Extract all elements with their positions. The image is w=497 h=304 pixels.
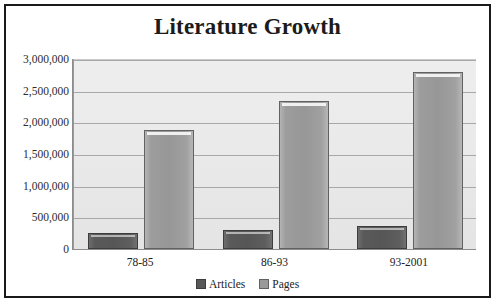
chart-legend: ArticlesPages <box>6 278 489 290</box>
legend-swatch-icon <box>196 279 206 289</box>
y-axis-tick-labels: 0500,0001,000,0001,500,0002,000,0002,500… <box>6 6 69 300</box>
x-axis-category-label: 78-85 <box>73 256 207 268</box>
bar-articles-93-2001 <box>357 226 407 249</box>
y-axis-tick-label: 2,500,000 <box>7 85 69 97</box>
x-axis-category-label: 86-93 <box>207 256 341 268</box>
legend-label: Articles <box>209 278 245 290</box>
y-axis-tick-label: 0 <box>7 243 69 255</box>
bar-pages-86-93 <box>279 101 329 249</box>
y-axis-tick-label: 1,000,000 <box>7 180 69 192</box>
x-axis-line <box>72 249 476 250</box>
bar-pages-93-2001 <box>413 72 463 249</box>
bar-articles-86-93 <box>223 230 273 249</box>
legend-item-articles[interactable]: Articles <box>196 278 245 290</box>
y-axis-tick-label: 3,000,000 <box>7 53 69 65</box>
legend-item-pages[interactable]: Pages <box>259 278 299 290</box>
chart-title: Literature Growth <box>6 14 489 40</box>
y-axis-tick-label: 1,500,000 <box>7 148 69 160</box>
x-axis-category-label: 93-2001 <box>342 256 476 268</box>
bar-pages-78-85 <box>144 130 194 249</box>
chart-frame: Literature Growth 0500,0001,000,0001,500… <box>4 4 491 298</box>
legend-swatch-icon <box>259 279 269 289</box>
gridline <box>74 60 476 61</box>
bar-articles-78-85 <box>88 233 138 249</box>
plot-area <box>73 59 476 249</box>
y-axis-tick-label: 500,000 <box>7 211 69 223</box>
legend-label: Pages <box>272 278 299 290</box>
y-axis-tick-label: 2,000,000 <box>7 116 69 128</box>
